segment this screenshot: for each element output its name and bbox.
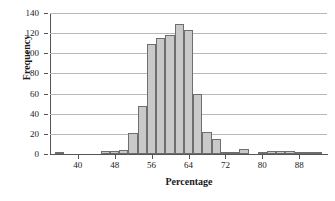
y-tick-label-20: 20 xyxy=(30,129,39,138)
y-tick-label-120: 120 xyxy=(26,29,40,38)
x-tick-label-80: 80 xyxy=(258,161,267,170)
bar xyxy=(184,30,193,154)
bar xyxy=(147,44,156,154)
bar xyxy=(202,132,211,154)
bar xyxy=(119,150,128,154)
bar xyxy=(295,152,304,154)
bar xyxy=(175,24,184,154)
bar xyxy=(258,152,267,154)
bar xyxy=(55,152,64,154)
y-tick-mark-20 xyxy=(44,134,48,135)
y-tick-label-40: 40 xyxy=(30,109,39,118)
y-tick-label-0: 0 xyxy=(35,150,40,159)
x-tick-label-48: 48 xyxy=(110,161,119,170)
bar xyxy=(285,151,294,154)
bar xyxy=(138,106,147,154)
x-tick-label-72: 72 xyxy=(221,161,230,170)
x-tick-mark-48 xyxy=(115,155,116,159)
y-tick-label-140: 140 xyxy=(26,9,40,18)
y-tick-mark-80 xyxy=(44,73,48,74)
bar xyxy=(276,151,285,154)
bar xyxy=(239,149,248,154)
y-tick-label-100: 100 xyxy=(26,49,40,58)
y-tick-mark-100 xyxy=(44,53,48,54)
bar xyxy=(267,151,276,154)
x-tick-label-40: 40 xyxy=(73,161,82,170)
y-tick-mark-0 xyxy=(44,154,48,155)
y-tick-mark-140 xyxy=(44,13,48,14)
y-tick-label-60: 60 xyxy=(30,89,39,98)
bar xyxy=(193,94,202,154)
x-tick-mark-64 xyxy=(189,155,190,159)
x-tick-mark-72 xyxy=(225,155,226,159)
bar xyxy=(128,133,137,154)
bar xyxy=(221,152,230,154)
x-tick-mark-88 xyxy=(299,155,300,159)
bar-series xyxy=(50,13,327,154)
bar xyxy=(313,152,322,154)
x-tick-label-56: 56 xyxy=(147,161,156,170)
bar xyxy=(230,152,239,154)
histogram-chart: Frequency 020406080100120140 40485664728… xyxy=(0,0,335,201)
x-axis-ticks: 40485664728088 xyxy=(50,155,328,175)
x-tick-mark-56 xyxy=(152,155,153,159)
y-tick-mark-40 xyxy=(44,114,48,115)
x-tick-mark-40 xyxy=(78,155,79,159)
bar xyxy=(165,35,174,154)
bar xyxy=(212,139,221,154)
y-tick-label-80: 80 xyxy=(30,69,39,78)
x-tick-label-64: 64 xyxy=(184,161,193,170)
y-tick-mark-120 xyxy=(44,33,48,34)
x-axis-title: Percentage xyxy=(50,176,328,187)
x-tick-label-88: 88 xyxy=(295,161,304,170)
bar xyxy=(101,151,110,154)
y-tick-mark-60 xyxy=(44,94,48,95)
y-axis-ticks: 020406080100120140 xyxy=(0,13,48,154)
bar xyxy=(304,152,313,154)
plot-area xyxy=(50,13,327,154)
bar xyxy=(156,38,165,154)
x-tick-mark-80 xyxy=(262,155,263,159)
bar xyxy=(110,151,119,154)
